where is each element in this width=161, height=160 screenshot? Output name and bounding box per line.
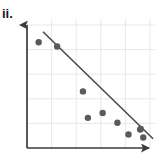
plot-canvas <box>0 0 161 160</box>
data-point <box>85 115 91 121</box>
data-point <box>140 134 146 140</box>
gridlines <box>27 19 155 148</box>
data-point <box>125 131 131 137</box>
scatter-plot-figure: ii. <box>0 0 161 160</box>
data-point <box>35 39 41 45</box>
data-points <box>35 39 146 141</box>
data-point <box>114 120 120 126</box>
data-point <box>99 110 105 116</box>
axes <box>27 25 149 148</box>
data-point <box>80 88 86 94</box>
data-point <box>138 126 144 132</box>
data-point <box>54 43 60 49</box>
